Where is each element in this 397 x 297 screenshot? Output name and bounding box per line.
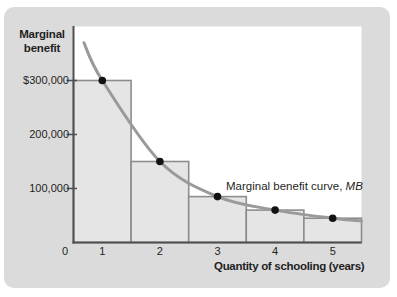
x-axis-title: Quantity of schooling (years) bbox=[214, 260, 364, 272]
mb-dot-year-4 bbox=[271, 206, 279, 214]
x-tick-label-2: 2 bbox=[157, 245, 163, 257]
y-tick-label-300000: $300,000 bbox=[0, 74, 69, 86]
x-tick-label-3: 3 bbox=[214, 245, 220, 257]
bar-year-1 bbox=[74, 81, 132, 243]
x-tick-label-4: 4 bbox=[272, 245, 278, 257]
mb-dot-year-3 bbox=[214, 193, 222, 201]
x-tick-label-5: 5 bbox=[330, 245, 336, 257]
y-axis-title-line-1: Marginal bbox=[6, 27, 78, 41]
y-axis-title: Marginal benefit bbox=[6, 27, 78, 55]
curve-annotation-text: Marginal benefit curve, bbox=[226, 180, 346, 192]
mb-dot-year-1 bbox=[99, 77, 107, 85]
figure-marginal-benefit-of-schooling: Marginal benefit $300,000200,000100,000 … bbox=[0, 0, 397, 297]
bar-year-4 bbox=[246, 210, 304, 242]
y-tick-label-200000: 200,000 bbox=[0, 128, 69, 140]
mb-dot-year-5 bbox=[329, 214, 337, 222]
curve-annotation: Marginal benefit curve, MB bbox=[226, 180, 363, 192]
bar-year-2 bbox=[131, 162, 189, 243]
curve-annotation-mb-label: MB bbox=[346, 180, 363, 192]
y-tick-label-100000: 100,000 bbox=[0, 182, 69, 194]
x-tick-label-1: 1 bbox=[99, 245, 105, 257]
y-axis-title-line-2: benefit bbox=[6, 41, 78, 55]
mb-dot-year-2 bbox=[156, 158, 164, 166]
x-tick-label-0: 0 bbox=[62, 245, 68, 257]
